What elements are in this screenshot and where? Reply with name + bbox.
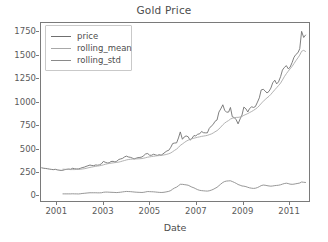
x-tick-mark [103, 202, 104, 205]
x-tick-label: 2007 [176, 206, 216, 216]
x-tick-label: 2011 [269, 206, 309, 216]
x-tick-label: 2005 [129, 206, 169, 216]
legend-label-price: price [77, 31, 98, 41]
x-axis-label: Date [40, 222, 310, 233]
legend-swatch-rolling-std [51, 60, 71, 61]
x-tick-mark [196, 202, 197, 205]
legend-swatch-rolling-mean [51, 48, 71, 49]
x-tick-label: 2009 [223, 206, 263, 216]
legend-item-price: price [51, 30, 126, 42]
x-tick-mark [289, 202, 290, 205]
legend-label-rolling-mean: rolling_mean [77, 43, 132, 53]
series-line-rolling-std [63, 181, 306, 194]
chart-legend: price rolling_mean rolling_std [45, 25, 132, 71]
legend-label-rolling-std: rolling_std [77, 55, 121, 65]
legend-item-rolling-std: rolling_std [51, 54, 126, 66]
x-tick-mark [243, 202, 244, 205]
x-tick-mark [149, 202, 150, 205]
x-tick-label: 2001 [36, 206, 76, 216]
x-tick-label: 2003 [83, 206, 123, 216]
legend-swatch-price [51, 36, 71, 37]
chart-figure: Gold Price 02505007501000125015001750 20… [0, 0, 328, 242]
x-tick-mark [56, 202, 57, 205]
legend-item-rolling-mean: rolling_mean [51, 42, 126, 54]
